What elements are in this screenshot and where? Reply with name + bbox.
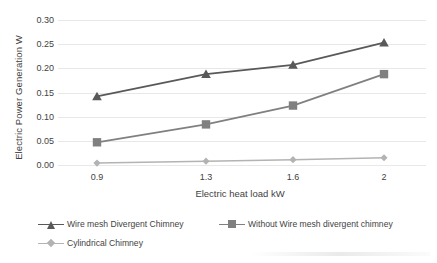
legend-item-wire-mesh-divergent-chimney[interactable]: Wire mesh Divergent Chimney xyxy=(38,219,184,229)
y-tick-label: 0.30 xyxy=(36,15,54,25)
y-tick-label: 0.15 xyxy=(36,88,54,98)
x-tick-label: 2 xyxy=(381,172,386,182)
data-point-square xyxy=(202,120,210,128)
y-tick-label: 0.10 xyxy=(36,112,54,122)
legend-marker-diamond-icon xyxy=(38,238,64,248)
gridline xyxy=(58,141,426,142)
data-point-diamond xyxy=(289,156,296,163)
data-point-triangle xyxy=(201,70,211,78)
data-point-diamond xyxy=(380,154,387,161)
gridline xyxy=(58,165,426,166)
gridline xyxy=(58,44,426,45)
chart-container: Electric Power Generation W 0.000.050.10… xyxy=(0,0,437,263)
legend-label: Wire mesh Divergent Chimney xyxy=(67,219,184,229)
x-tick-label: 1.3 xyxy=(200,172,213,182)
y-tick-label: 0.00 xyxy=(36,160,54,170)
gridline xyxy=(58,20,426,21)
series-line xyxy=(97,74,384,142)
series-line xyxy=(97,43,384,97)
legend-marker-triangle-icon xyxy=(38,219,64,229)
y-tick-label: 0.20 xyxy=(36,63,54,73)
data-point-triangle xyxy=(379,38,389,46)
gridline xyxy=(58,117,426,118)
gridline xyxy=(58,68,426,69)
image-artifact xyxy=(250,252,430,256)
data-point-square xyxy=(289,101,297,109)
data-point-diamond xyxy=(202,158,209,165)
legend-marker-square-icon xyxy=(219,219,245,229)
legend-label: Without Wire mesh divergent chimney xyxy=(248,219,393,229)
x-tick-label: 0.9 xyxy=(91,172,104,182)
y-axis-title: Electric Power Generation W xyxy=(13,18,24,178)
data-point-square xyxy=(380,70,388,78)
legend-item-cylindrical-chimney[interactable]: Cylindrical Chimney xyxy=(38,238,143,248)
data-point-square xyxy=(93,138,101,146)
series-line xyxy=(97,158,384,163)
x-axis-title: Electric heat load kW xyxy=(60,188,420,199)
y-tick-label: 0.05 xyxy=(36,136,54,146)
x-tick-label: 1.6 xyxy=(287,172,300,182)
legend-item-without-wire-mesh-divergent-chimney[interactable]: Without Wire mesh divergent chimney xyxy=(219,219,393,229)
gridline xyxy=(58,93,426,94)
y-tick-label: 0.25 xyxy=(36,39,54,49)
legend-label: Cylindrical Chimney xyxy=(67,238,143,248)
